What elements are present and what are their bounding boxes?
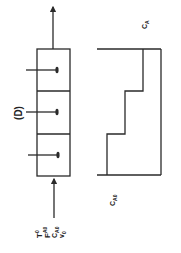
reactor-cascade [26,49,70,176]
cstr-series-diagram: (D) T0 FA0 CA0 v0 CA0 CA [0,0,181,253]
stirrer-icon [26,67,59,73]
stirrer-icon [26,109,59,115]
profile-start-label: CA0 [109,194,118,206]
inlet-labels: T0 FA0 CA0 v0 [34,226,67,238]
figure-label: (D) [13,106,24,120]
stirrer-icon [28,152,60,158]
concentration-profile [97,49,161,175]
profile-end-label: CA [141,20,150,29]
staircase-profile [107,49,143,175]
